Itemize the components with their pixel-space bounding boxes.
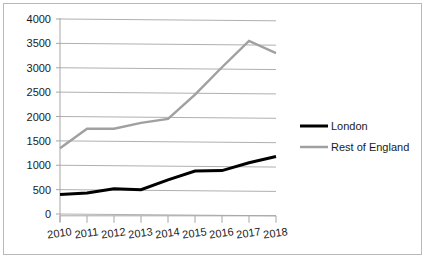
line-chart: 05001000150020002500300035004000 2010201… [4,4,423,256]
year-axis-tick-label: 2012 [100,225,126,240]
chart-legend: LondonRest of England [300,120,409,153]
gridline [60,19,276,21]
gridline [60,92,276,94]
value-axis-tick-label: 0 [45,208,51,220]
year-axis: 201020112012201320142015201620172018 [46,216,288,241]
value-axis-tick-label: 3500 [27,37,51,49]
year-axis-tick-label: 2013 [127,225,153,240]
value-axis: 05001000150020002500300035004000 [27,13,60,222]
value-axis-tick-label: 500 [33,184,51,196]
year-axis-tick-label: 2015 [181,225,207,240]
year-axis-tick-label: 2016 [208,225,234,240]
year-axis-tick-label: 2011 [74,225,99,240]
value-axis-tick-label: 1500 [27,135,51,147]
series-line-london [60,156,276,194]
gridline [60,68,276,70]
legend-label-rest-of-england: Rest of England [331,141,409,153]
legend-label-london: London [331,120,368,132]
gridline [60,141,276,143]
value-axis-tick-label: 4000 [27,13,51,25]
value-axis-tick-label: 2500 [27,86,51,98]
series-line-rest-of-england [60,41,276,148]
value-axis-tick-label: 2000 [27,111,51,123]
value-axis-tick-label: 1000 [27,159,51,171]
year-axis-tick-label: 2017 [235,225,261,240]
year-axis-tick-label: 2014 [154,225,180,240]
year-axis-tick-label: 2010 [46,225,72,240]
value-axis-tick-label: 3000 [27,62,51,74]
chart-container: 05001000150020002500300035004000 2010201… [3,3,422,255]
year-axis-tick-label: 2018 [262,225,288,240]
